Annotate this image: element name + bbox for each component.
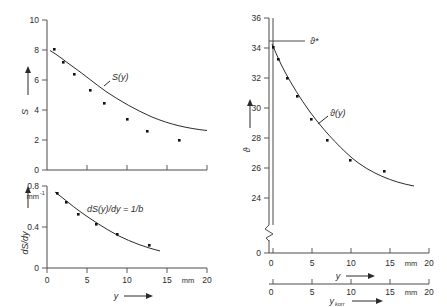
tick-label: 10 [346,287,356,297]
bottom-left-axis-label: dS/dy [20,231,30,255]
x-axis-unit: mm [182,276,195,285]
bottom-left-curve-label: dS(y)/dy = 1/b [87,204,143,214]
tick-label: 15 [385,258,395,268]
figure-root: 10 8 6 4 2 0 S [0,0,447,307]
tick-label: 15 [162,275,172,285]
bottom-left-x-axis-label: y [113,291,119,301]
tick-label: 34 [252,43,262,53]
right-arrow-icon [376,298,383,304]
tick-label: 0 [269,258,274,268]
up-arrow-icon [25,66,31,73]
tick-label: 2 [34,135,39,145]
tick-label: 30 [252,103,262,113]
tick-label: 10 [30,15,40,25]
tick-label: 32 [252,73,262,83]
bottom-left-curve [55,192,160,251]
tick-label: 0 [45,275,50,285]
tick-label: 28 [252,133,262,143]
tick-label: 0 [34,263,39,273]
right-x-axis-label: y [335,271,341,281]
top-left-ylabel-group: S [20,66,31,115]
right-x-axis-label-secondary-sub: korr [335,301,346,307]
top-left-axis-label: S [20,109,30,115]
tick-label: 20 [424,287,434,297]
asymptote-label: ϑ* [310,36,319,46]
panel-bottom-left: 0.8 0.4 0 0 5 10 15 mm 20 mm -1 dS/dy [20,181,212,301]
right-x-ticks-primary: 0 5 10 15 mm 20 [269,248,434,268]
right-y-ticks: 36 34 32 30 28 26 24 0 [252,13,269,258]
top-left-data-points [53,48,181,142]
tick-label: 5 [310,258,315,268]
top-left-y-ticks: 10 8 6 4 2 0 [30,15,47,175]
bottom-left-xlabel-group: y [113,291,153,301]
right-axis-label: ϑ [242,146,252,152]
right-x-axis-label-secondary: y [329,296,335,306]
tick-label: 10 [346,258,356,268]
tick-label: 0.4 [27,222,39,232]
tick-label: 5 [310,287,315,297]
right-xlabel-primary-group: y [335,271,375,281]
tick-label: 10 [122,275,132,285]
right-arrow-icon [146,293,153,299]
panel-right: 36 34 32 30 28 26 24 0 ϑ ϑ* 0 [242,13,434,307]
curve-label: ϑ(y) [330,108,345,118]
top-left-x-ticks [87,165,207,170]
curve-label: S(y) [112,72,129,82]
x-axis-unit: mm [405,259,418,268]
right-x-ticks-secondary: 0 5 10 15 mm 20 [269,279,434,297]
top-left-curve-annotation: S(y) [104,72,129,86]
tick-label: 20 [424,258,434,268]
right-asymptote-group: ϑ* [269,36,319,46]
right-arrow-icon [368,273,375,279]
y-axis-unit-exponent: -1 [40,190,45,196]
tick-label: 5 [85,275,90,285]
bottom-left-x-ticks: 0 5 10 15 mm 20 [45,268,212,285]
tick-label: 4 [34,105,39,115]
right-xlabel-secondary-group: y korr [329,296,384,307]
tick-label: 0 [256,248,261,258]
right-data-points [272,46,386,173]
right-curve-annotation: ϑ(y) [318,108,345,124]
tick-label: 8 [34,45,39,55]
tick-label: 6 [34,75,39,85]
tick-label: 20 [202,275,212,285]
tick-label: 0 [34,165,39,175]
tick-label: 24 [252,193,262,203]
panel-top-left: 10 8 6 4 2 0 S [20,15,207,175]
axis-break-icon [265,225,273,241]
bottom-left-data-points [56,192,151,247]
tick-label: 15 [385,287,395,297]
tick-label: 26 [252,163,262,173]
x-axis-unit: mm [405,288,418,297]
tick-label: 0 [269,287,274,297]
tick-label: 36 [252,13,262,23]
figure-svg: 10 8 6 4 2 0 S [0,0,447,307]
